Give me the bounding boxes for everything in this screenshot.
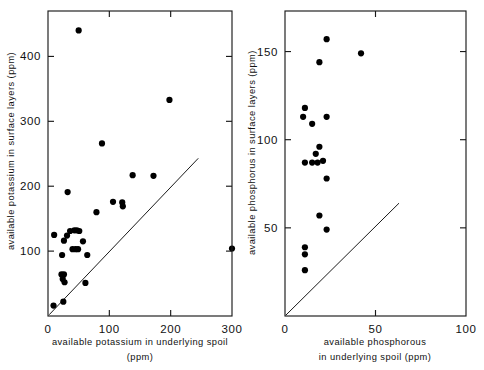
right-data-point [309,160,315,166]
right-data-point [324,175,330,181]
right-data-point [316,144,322,150]
right-data-point [309,121,315,127]
right-data-point [316,59,322,65]
right-data-point [302,267,308,273]
right-data-point [302,244,308,250]
right-reference-line [286,203,399,315]
right-x-tick-label: 50 [369,323,383,335]
figure-root: 0100200300100200300400 available potassi… [0,0,484,370]
right-data-point [300,114,306,120]
right-data-point [314,160,320,166]
right-data-point [320,158,326,164]
right-data-point [302,105,308,111]
right-y-tick-label: 50 [264,222,278,234]
right-panel-phosphorus: 05010050100150 available phosphorus in s… [0,0,484,370]
right-x-tick-label: 100 [456,323,477,335]
right-data-point [302,160,308,166]
right-y-tick-label: 100 [257,134,278,146]
right-y-axis-label: available phosphorus in surface layers (… [247,50,257,255]
right-data-point [302,251,308,257]
right-data-point [324,114,330,120]
right-x-axis-label-line1: available phosphorous [324,337,427,347]
right-axis-group: 05010050100150 [257,11,477,335]
right-y-tick-label: 150 [257,46,278,58]
right-data-point [324,227,330,233]
right-x-axis-label-line2: in underlying spoil (ppm) [319,352,432,362]
right-data-point [313,151,319,157]
right-plot-area [286,36,399,315]
right-data-point [316,212,322,218]
right-data-point [358,50,364,56]
right-x-tick-label: 0 [282,323,289,335]
right-data-point [324,36,330,42]
